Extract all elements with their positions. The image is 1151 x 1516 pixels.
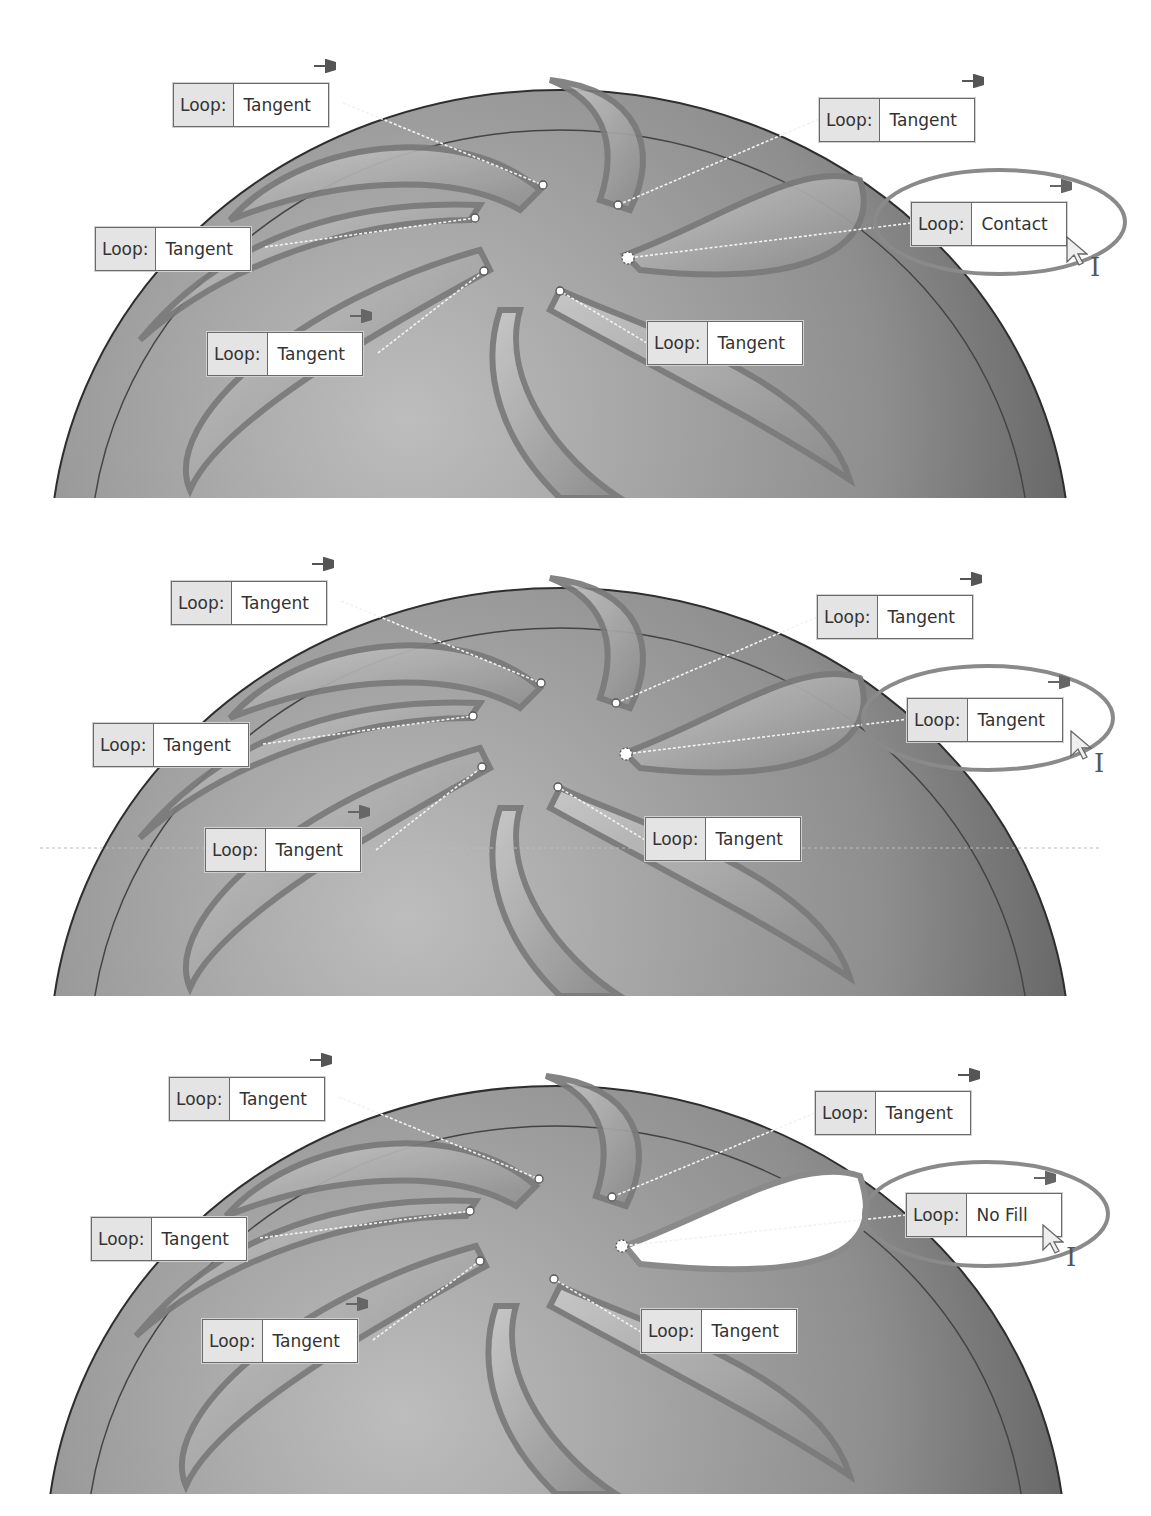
loop-callout[interactable]: Loop: Tangent bbox=[91, 1217, 247, 1261]
loop-callout[interactable]: Loop: Tangent bbox=[645, 817, 801, 861]
loop-condition-value[interactable]: Contact bbox=[972, 203, 1066, 245]
loop-callout-highlighted[interactable]: Loop: Contact bbox=[911, 202, 1067, 246]
loop-callout[interactable]: Loop: Tangent bbox=[169, 1077, 325, 1121]
loop-label: Loop: bbox=[818, 596, 878, 638]
viewport-panel-2[interactable]: Loop: Tangent Loop: Tangent Loop: Tangen… bbox=[0, 498, 1151, 996]
pin-icon[interactable] bbox=[312, 556, 334, 570]
pin-icon[interactable] bbox=[310, 1052, 332, 1066]
loop-callout[interactable]: Loop: Tangent bbox=[173, 83, 329, 127]
loop-callout[interactable]: Loop: Tangent bbox=[815, 1091, 971, 1135]
loop-callout[interactable]: Loop: Tangent bbox=[95, 227, 251, 271]
loop-condition-value[interactable]: Tangent bbox=[878, 596, 972, 638]
loop-condition-value[interactable]: Tangent bbox=[232, 582, 326, 624]
loop-condition-value[interactable]: Tangent bbox=[152, 1218, 246, 1260]
pin-icon[interactable] bbox=[348, 804, 370, 818]
loop-callout-highlighted[interactable]: Loop: Tangent bbox=[907, 698, 1063, 742]
loop-label: Loop: bbox=[820, 99, 880, 141]
loop-label: Loop: bbox=[96, 228, 156, 270]
loop-callout[interactable]: Loop: Tangent bbox=[202, 1319, 358, 1363]
loop-condition-value[interactable]: Tangent bbox=[156, 228, 250, 270]
mouse-pointer-icon bbox=[1066, 236, 1088, 270]
viewport-panel-3[interactable]: Loop: Tangent Loop: Tangent Loop: No Fil… bbox=[0, 996, 1151, 1494]
loop-label: Loop: bbox=[648, 322, 708, 364]
loop-condition-value[interactable]: Tangent bbox=[880, 99, 974, 141]
loop-label: Loop: bbox=[170, 1078, 230, 1120]
loop-label: Loop: bbox=[642, 1310, 702, 1352]
text-cursor-icon: I bbox=[1090, 252, 1100, 282]
loop-callout[interactable]: Loop: Tangent bbox=[641, 1309, 797, 1353]
loop-callout[interactable]: Loop: Tangent bbox=[207, 332, 363, 376]
loop-condition-value[interactable]: Tangent bbox=[968, 699, 1062, 741]
mouse-pointer-icon bbox=[1070, 730, 1092, 764]
pin-icon[interactable] bbox=[962, 73, 984, 87]
pin-icon[interactable] bbox=[350, 308, 372, 322]
loop-label: Loop: bbox=[92, 1218, 152, 1260]
loop-label: Loop: bbox=[203, 1320, 263, 1362]
loop-callout[interactable]: Loop: Tangent bbox=[819, 98, 975, 142]
loop-callout[interactable]: Loop: Tangent bbox=[171, 581, 327, 625]
loop-condition-value[interactable]: Tangent bbox=[154, 724, 248, 766]
loop-label: Loop: bbox=[912, 203, 972, 245]
loop-label: Loop: bbox=[172, 582, 232, 624]
loop-label: Loop: bbox=[174, 84, 234, 126]
loop-label: Loop: bbox=[816, 1092, 876, 1134]
loop-label: Loop: bbox=[208, 333, 268, 375]
loop-condition-value[interactable]: Tangent bbox=[230, 1078, 324, 1120]
pin-icon[interactable] bbox=[1048, 674, 1070, 688]
viewport-panel-1[interactable]: Loop: Tangent Loop: Tangent Loop: Contac… bbox=[0, 0, 1151, 498]
loop-condition-value[interactable]: Tangent bbox=[708, 322, 802, 364]
text-cursor-icon: I bbox=[1094, 748, 1104, 778]
pin-icon[interactable] bbox=[314, 58, 336, 72]
loop-label: Loop: bbox=[94, 724, 154, 766]
loop-callout[interactable]: Loop: Tangent bbox=[817, 595, 973, 639]
loop-condition-value[interactable]: Tangent bbox=[263, 1320, 357, 1362]
loop-condition-value[interactable]: Tangent bbox=[706, 818, 800, 860]
loop-condition-value[interactable]: Tangent bbox=[266, 829, 360, 871]
loop-callout-highlighted[interactable]: Loop: No Fill bbox=[906, 1193, 1062, 1237]
loop-condition-value[interactable]: Tangent bbox=[876, 1092, 970, 1134]
pin-icon[interactable] bbox=[1050, 178, 1072, 192]
loop-label: Loop: bbox=[206, 829, 266, 871]
text-cursor-icon: I bbox=[1066, 1242, 1076, 1272]
pin-icon[interactable] bbox=[1034, 1170, 1056, 1184]
mouse-pointer-icon bbox=[1042, 1224, 1064, 1258]
loop-label: Loop: bbox=[907, 1194, 967, 1236]
loop-callout[interactable]: Loop: Tangent bbox=[93, 723, 249, 767]
loop-condition-value[interactable]: Tangent bbox=[234, 84, 328, 126]
loop-condition-value[interactable]: Tangent bbox=[268, 333, 362, 375]
pin-icon[interactable] bbox=[958, 1067, 980, 1081]
loop-condition-value[interactable]: Tangent bbox=[702, 1310, 796, 1352]
loop-label: Loop: bbox=[646, 818, 706, 860]
loop-label: Loop: bbox=[908, 699, 968, 741]
pin-icon[interactable] bbox=[960, 571, 982, 585]
loop-callout[interactable]: Loop: Tangent bbox=[647, 321, 803, 365]
pin-icon[interactable] bbox=[346, 1296, 368, 1310]
loop-callout[interactable]: Loop: Tangent bbox=[205, 828, 361, 872]
